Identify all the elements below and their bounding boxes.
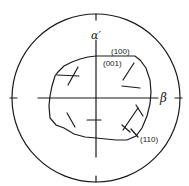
plane-label-110: (110) [140,136,158,144]
trace-line [136,105,143,116]
trace-line [122,86,140,88]
beta-axis-label: β [160,92,167,104]
trace-line [123,108,138,130]
trace-line [123,63,134,80]
alpha-axis-label: α′ [91,30,101,41]
plane-label-001: (001) [103,60,122,68]
trace-line [67,113,75,127]
trace-line [131,129,138,137]
trace-line [57,75,79,76]
plane-label-100: (100) [111,48,130,56]
